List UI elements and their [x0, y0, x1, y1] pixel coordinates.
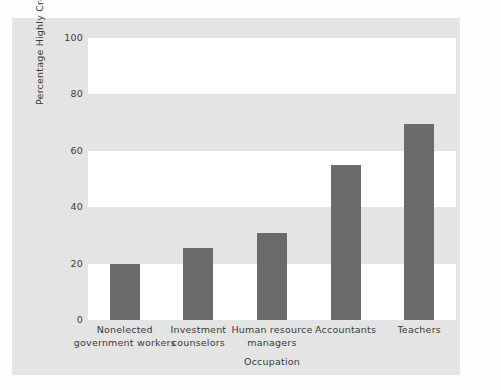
bar — [257, 233, 287, 320]
y-tick-80: 80 — [71, 89, 84, 99]
y-tick-100: 100 — [64, 33, 83, 43]
band-60-80 — [88, 94, 456, 150]
x-tick-label: Teachers — [366, 324, 472, 337]
chart-figure: Percentage Highly Credible 020406080100 … — [0, 0, 501, 390]
bar — [183, 248, 213, 320]
y-tick-60: 60 — [71, 146, 84, 156]
bar — [110, 264, 140, 320]
y-tick-20: 20 — [71, 259, 84, 269]
band-40-60 — [88, 151, 456, 207]
plot-area — [88, 38, 456, 320]
band-80-100 — [88, 38, 456, 94]
y-tick-40: 40 — [71, 202, 84, 212]
y-axis-label: Percentage Highly Credible — [34, 0, 45, 105]
bar — [404, 124, 434, 320]
x-axis-label: Occupation — [219, 356, 325, 367]
bar — [331, 165, 361, 320]
